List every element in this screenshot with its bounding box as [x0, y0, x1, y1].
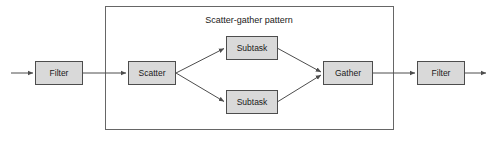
node-scatter[interactable]: Scatter	[129, 62, 176, 85]
node-filter-in-label: Filter	[50, 68, 69, 78]
node-gather[interactable]: Gather	[324, 62, 373, 85]
connector-subtask-bottom-to-gather	[278, 75, 321, 102]
node-subtask-bottom[interactable]: Subtask	[227, 91, 278, 114]
scatter-gather-diagram: Scatter-gather pattern Filter Scatter Su…	[0, 0, 496, 143]
node-gather-label: Gather	[335, 68, 361, 78]
connector-scatter-to-subtask-top	[176, 49, 224, 74]
node-subtask-bottom-label: Subtask	[237, 97, 268, 107]
connector-scatter-to-subtask-bottom	[176, 73, 224, 102]
node-filter-out-label: Filter	[432, 68, 451, 78]
node-filter-out[interactable]: Filter	[418, 62, 465, 85]
node-subtask-top[interactable]: Subtask	[227, 37, 278, 60]
node-scatter-label: Scatter	[139, 68, 166, 78]
diagram-canvas: Scatter-gather pattern Filter Scatter Su…	[0, 0, 496, 143]
connector-subtask-top-to-gather	[278, 49, 321, 73]
group-title: Scatter-gather pattern	[205, 15, 293, 25]
node-filter-in[interactable]: Filter	[36, 62, 83, 85]
node-subtask-top-label: Subtask	[237, 43, 268, 53]
